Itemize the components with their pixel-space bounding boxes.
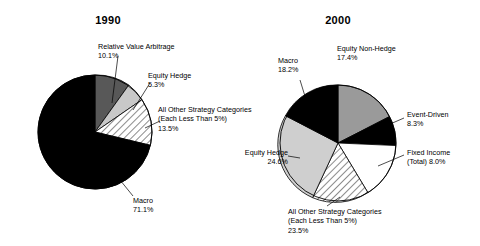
label-equity-non-hedge-value: 17.4% [337,53,396,62]
label-relative-value-arbitrage-name: Relative Value Arbitrage [98,42,175,51]
label-all-other-2000-name: All Other Strategy Categories [288,207,381,216]
pie-charts-figure: 1990 2000 [0,0,480,246]
label-event-driven-value: 8.3% [407,119,449,128]
label-event-driven: Event-Driven 8.3% [407,110,449,129]
label-macro-2000-value: 18.2% [278,65,298,74]
label-all-other-2000: All Other Strategy Categories (Each Less… [288,207,381,235]
pie-2000 [278,85,396,202]
label-fixed-income-name: Fixed Income [407,148,450,157]
label-macro-1990-name: Macro [133,196,153,205]
label-relative-value-arbitrage: Relative Value Arbitrage 10.1% [98,42,175,61]
label-fixed-income: Fixed Income (Total) 8.0% [407,148,450,167]
label-macro-1990: Macro 71.1% [133,196,153,215]
label-all-other-1990-sub: (Each Less Than 5%) [158,114,251,123]
leader-line-macro-1990 [120,180,133,196]
label-fixed-income-value: (Total) 8.0% [407,157,450,166]
label-equity-hedge-2000-value: 24.6% [215,157,288,166]
pie-1990 [38,75,152,189]
label-equity-hedge-1990: Equity Hedge 5.3% [148,71,191,90]
label-equity-hedge-1990-value: 5.3% [148,80,191,89]
label-equity-non-hedge: Equity Non-Hedge 17.4% [337,44,396,63]
label-event-driven-name: Event-Driven [407,110,449,119]
label-macro-2000: Macro 18.2% [278,56,298,75]
label-macro-1990-value: 71.1% [133,205,153,214]
label-all-other-1990: All Other Strategy Categories (Each Less… [158,105,251,133]
label-all-other-2000-sub: (Each Less Than 5%) [288,216,381,225]
label-macro-2000-name: Macro [278,56,298,65]
label-equity-hedge-1990-name: Equity Hedge [148,71,191,80]
label-relative-value-arbitrage-value: 10.1% [98,51,175,60]
label-equity-hedge-2000: Equity Hedge 24.6% [215,148,288,167]
label-all-other-1990-name: All Other Strategy Categories [158,105,251,114]
label-equity-non-hedge-name: Equity Non-Hedge [337,44,396,53]
label-all-other-1990-value: 13.5% [158,124,251,133]
label-all-other-2000-value: 23.5% [288,226,381,235]
label-equity-hedge-2000-name: Equity Hedge [215,148,288,157]
